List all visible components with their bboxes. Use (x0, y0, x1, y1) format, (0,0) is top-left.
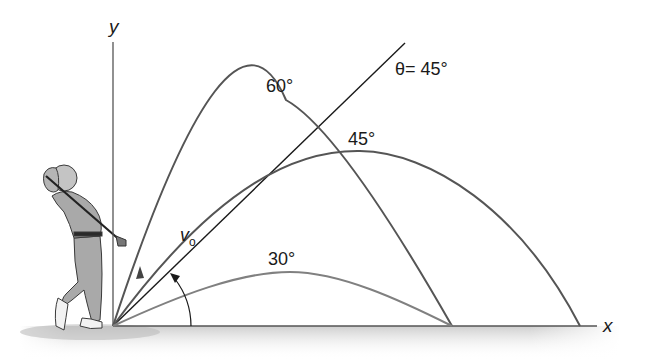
diagram-canvas (0, 0, 645, 359)
launch-angle-label: θ= 45° (395, 60, 448, 78)
launch-angle-arc (175, 279, 191, 326)
trajectory-label-45: 45° (348, 130, 375, 148)
trajectory-label-30: 30° (268, 250, 295, 268)
y-axis-label: y (109, 17, 119, 36)
angle-arc-arrowhead-icon (170, 273, 180, 283)
initial-velocity-label: vo (180, 226, 196, 248)
launch-direction-line (113, 43, 405, 326)
ground-shadow (20, 324, 620, 359)
x-axis-label: x (603, 316, 613, 335)
trajectory-60deg (113, 65, 452, 326)
trajectory-30deg (113, 272, 452, 326)
projectile-diagram: y x θ= 45° 60° 45° 30° vo (0, 0, 645, 359)
velocity-arrow-icon (136, 266, 144, 279)
trajectory-label-60: 60° (266, 77, 293, 95)
